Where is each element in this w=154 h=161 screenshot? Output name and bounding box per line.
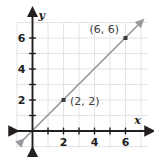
point-label-6-6: (6, 6) (89, 23, 119, 36)
x-tick-label-4: 4 (91, 136, 99, 149)
point-label-2-2: (2, 2) (70, 95, 100, 108)
graph-canvas: 2 4 6 2 4 6 y x (2, 2) (6, 6) (0, 0, 154, 161)
data-point-6-6 (124, 36, 128, 40)
x-axis-label: x (133, 114, 141, 127)
y-tick-label-4: 4 (18, 63, 26, 76)
data-point-2-2 (62, 98, 66, 102)
x-tick-label-2: 2 (60, 136, 68, 149)
coordinate-graph: 2 4 6 2 4 6 y x (2, 2) (6, 6) (0, 0, 154, 161)
y-tick-label-2: 2 (18, 94, 26, 107)
y-tick-label-6: 6 (18, 32, 26, 45)
x-tick-label-6: 6 (122, 136, 130, 149)
graph-background (0, 0, 154, 161)
